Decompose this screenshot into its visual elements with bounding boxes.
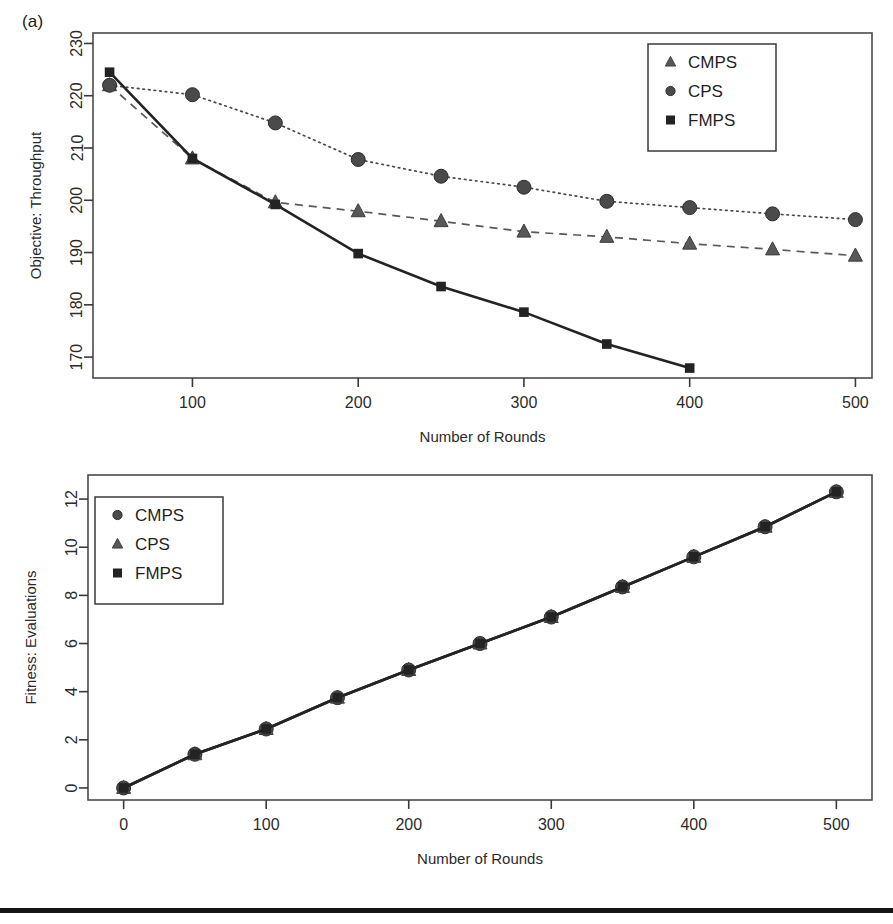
legend-label: CMPS bbox=[135, 506, 184, 525]
data-point-fmps bbox=[333, 693, 343, 703]
x-axis-tick-label: 200 bbox=[345, 394, 372, 411]
y-axis-tick-label: 190 bbox=[69, 239, 86, 266]
y-axis-title: Objective: Throughput bbox=[27, 131, 44, 279]
figure-container: (a) 170180190200210220230100200300400500… bbox=[0, 0, 893, 924]
x-axis-tick-label: 200 bbox=[395, 816, 422, 833]
data-point-cps bbox=[683, 201, 697, 215]
data-point-cmps bbox=[848, 248, 862, 261]
data-point-fmps bbox=[119, 783, 129, 793]
data-point-cps bbox=[268, 116, 282, 130]
series-line-fmps bbox=[110, 72, 690, 368]
y-axis-tick-label: 10 bbox=[64, 538, 81, 556]
footer-rule bbox=[0, 908, 893, 913]
legend-circle-icon bbox=[113, 510, 122, 519]
y-axis-tick-label: 0 bbox=[64, 783, 81, 792]
chart-legend: CMPSCPSFMPS bbox=[95, 497, 223, 604]
x-axis-tick-label: 500 bbox=[842, 394, 869, 411]
y-axis-title: Fitness: Evaluations bbox=[22, 570, 39, 704]
data-point-fmps bbox=[546, 612, 556, 622]
legend-square-icon bbox=[666, 116, 675, 125]
data-point-fmps bbox=[760, 522, 770, 532]
legend-label: CPS bbox=[688, 82, 723, 101]
chart-legend: CMPSCPSFMPS bbox=[648, 44, 776, 151]
legend-label: FMPS bbox=[688, 111, 735, 130]
legend-label: CPS bbox=[135, 535, 170, 554]
data-point-cps bbox=[517, 180, 531, 194]
legend-label: FMPS bbox=[135, 564, 182, 583]
y-axis-tick-label: 220 bbox=[69, 82, 86, 109]
data-point-cmps bbox=[683, 236, 697, 249]
x-axis-title: Number of Rounds bbox=[420, 428, 546, 445]
legend-square-icon bbox=[113, 569, 122, 578]
chart-panel-a: (a) 170180190200210220230100200300400500… bbox=[0, 0, 893, 450]
objective-throughput-chart: 170180190200210220230100200300400500Numb… bbox=[0, 0, 893, 450]
data-point-fmps bbox=[190, 749, 200, 759]
x-axis-tick-label: 400 bbox=[676, 394, 703, 411]
x-axis-tick-label: 100 bbox=[253, 816, 280, 833]
data-point-fmps bbox=[404, 665, 414, 675]
y-axis-tick-label: 12 bbox=[64, 490, 81, 508]
y-axis-tick-label: 6 bbox=[64, 639, 81, 648]
data-point-fmps bbox=[261, 724, 271, 734]
data-point-cps bbox=[848, 213, 862, 227]
data-point-fmps bbox=[602, 339, 612, 349]
data-point-fmps bbox=[353, 249, 363, 259]
data-point-fmps bbox=[685, 363, 695, 373]
chart-panel-b: 0246810120100200300400500Number of Round… bbox=[0, 450, 893, 880]
x-axis-title: Number of Rounds bbox=[417, 850, 543, 867]
legend-label: CMPS bbox=[688, 53, 737, 72]
y-axis-tick-label: 170 bbox=[69, 344, 86, 371]
data-point-fmps bbox=[689, 552, 699, 562]
data-point-fmps bbox=[832, 487, 842, 497]
data-point-fmps bbox=[618, 582, 628, 592]
data-point-fmps bbox=[475, 639, 485, 649]
x-axis-tick-label: 100 bbox=[179, 394, 206, 411]
x-axis-tick-label: 0 bbox=[119, 816, 128, 833]
x-axis-tick-label: 300 bbox=[538, 816, 565, 833]
data-point-cps bbox=[185, 88, 199, 102]
x-axis-tick-label: 500 bbox=[823, 816, 850, 833]
fitness-evaluations-chart: 0246810120100200300400500Number of Round… bbox=[0, 450, 893, 880]
data-point-cmps bbox=[766, 242, 780, 255]
data-point-fmps bbox=[105, 67, 115, 77]
data-point-fmps bbox=[271, 200, 281, 210]
y-axis-tick-label: 8 bbox=[64, 591, 81, 600]
data-point-fmps bbox=[188, 154, 198, 164]
y-axis-tick-label: 2 bbox=[64, 735, 81, 744]
x-axis-tick-label: 300 bbox=[511, 394, 538, 411]
y-axis-tick-label: 230 bbox=[69, 30, 86, 57]
y-axis-tick-label: 4 bbox=[64, 687, 81, 696]
legend-circle-icon bbox=[666, 86, 675, 95]
y-axis-tick-label: 200 bbox=[69, 187, 86, 214]
data-point-cps bbox=[434, 169, 448, 183]
data-point-cps bbox=[103, 78, 117, 92]
data-point-fmps bbox=[436, 282, 446, 292]
x-axis-tick-label: 400 bbox=[680, 816, 707, 833]
y-axis-tick-label: 210 bbox=[69, 135, 86, 162]
y-axis-tick-label: 180 bbox=[69, 291, 86, 318]
data-point-cps bbox=[766, 207, 780, 221]
data-point-fmps bbox=[519, 307, 529, 317]
data-point-cps bbox=[351, 153, 365, 167]
data-point-cps bbox=[600, 194, 614, 208]
